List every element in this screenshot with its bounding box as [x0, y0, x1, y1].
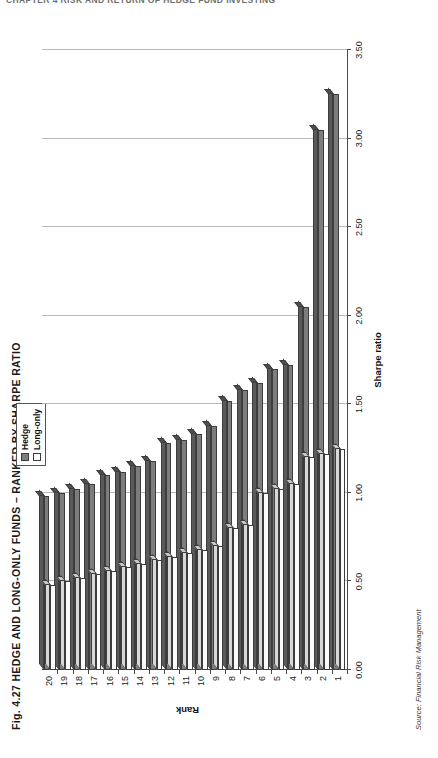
bar-long-only-rank-2	[324, 454, 330, 670]
value-axis-tick-label: 0.50	[354, 573, 364, 591]
bar-end-cap	[96, 470, 106, 475]
category-axis-tick-label: 19	[59, 676, 69, 696]
category-axis-tick-label: 5	[272, 676, 282, 696]
category-axis-tick	[73, 670, 74, 674]
bar-face	[50, 585, 56, 670]
category-axis-tick	[301, 670, 302, 674]
bar-face	[279, 489, 285, 670]
gridline	[42, 49, 347, 50]
category-axis-tick-label: 1	[333, 676, 343, 696]
bar-face	[141, 564, 147, 670]
value-axis-tick	[347, 49, 351, 50]
value-axis-tick-label: 2.50	[354, 218, 364, 236]
category-axis-tick-label: 3	[303, 676, 313, 696]
bar-end-cap	[218, 396, 228, 401]
bar-end-cap	[187, 429, 197, 434]
value-axis-tick-label: 3.50	[354, 41, 364, 59]
legend-item-hedge: Hedge	[20, 409, 30, 461]
bar-long-only-rank-6	[263, 493, 269, 670]
category-axis-tick	[103, 670, 104, 674]
category-axis-tick-label: 16	[105, 676, 115, 696]
bar-face	[96, 574, 102, 670]
bar-end-cap	[81, 479, 91, 484]
bar-top-face	[197, 543, 202, 670]
value-axis-tick	[347, 315, 351, 316]
legend-label-long-only: Long-only	[32, 409, 42, 450]
category-axis-tick-label: 10	[196, 676, 206, 696]
bar-face	[263, 493, 269, 670]
category-axis-tick-label: 20	[44, 676, 54, 696]
value-axis-title: Sharpe ratio	[372, 50, 383, 670]
category-axis-tick-label: 7	[242, 676, 252, 696]
bar-top-face	[136, 557, 141, 670]
bar-top-face	[335, 442, 340, 670]
category-axis-tick-label: 18	[74, 676, 84, 696]
bar-end-cap	[309, 125, 319, 130]
bar-face	[294, 484, 300, 670]
bar-long-only-rank-11	[187, 553, 193, 670]
bar-long-only-rank-1	[340, 449, 346, 670]
category-axis-tick	[256, 670, 257, 674]
category-axis-tick-label: 4	[288, 676, 298, 696]
bar-long-only-rank-18	[80, 578, 86, 670]
bar-end-cap	[279, 360, 289, 365]
gridline	[42, 226, 347, 227]
bar-face	[111, 571, 117, 670]
bar-top-face	[75, 571, 80, 670]
category-axis-tick	[164, 670, 165, 674]
bar-top-face	[152, 554, 157, 670]
bar-face	[233, 528, 239, 670]
category-axis-tick	[240, 670, 241, 674]
value-axis-tick	[347, 226, 351, 227]
bar-end-cap	[233, 385, 243, 390]
category-axis-tick-label: 13	[150, 676, 160, 696]
bar-face	[172, 557, 178, 670]
bar-top-face	[60, 575, 65, 670]
bar-long-only-rank-19	[65, 581, 71, 670]
bar-long-only-rank-7	[248, 525, 254, 670]
value-axis-tick-label: 2.00	[354, 307, 364, 325]
bar-top-face	[45, 579, 50, 670]
category-axis-tick	[347, 670, 348, 674]
bar-end-cap	[65, 484, 75, 489]
bar-face	[324, 454, 330, 670]
bar-top-face	[274, 483, 279, 670]
bar-top-face	[167, 550, 172, 670]
value-axis-tick-label: 3.00	[354, 130, 364, 148]
value-axis-tick	[347, 403, 351, 404]
figure-stage: Fig. 4.27 HEDGE AND LONG-ONLY FUNDS – RA…	[0, 0, 438, 758]
bar-face	[65, 581, 71, 670]
bar-top-face	[243, 518, 248, 670]
gridline	[42, 138, 347, 139]
bar-end-cap	[264, 364, 274, 369]
value-axis-tick-label: 1.00	[354, 484, 364, 502]
bar-face	[309, 457, 315, 670]
bar-top-face	[182, 547, 187, 670]
bar-top-face	[91, 568, 96, 670]
bar-end-cap	[126, 461, 136, 466]
category-axis-tick-label: 9	[211, 676, 221, 696]
category-axis-tick	[134, 670, 135, 674]
bar-top-face	[213, 540, 218, 670]
bar-long-only-rank-20	[50, 585, 56, 670]
category-axis-title: Rank	[176, 705, 199, 716]
bar-end-cap	[203, 421, 213, 426]
bar-face	[218, 546, 224, 670]
category-axis-tick	[118, 670, 119, 674]
bar-long-only-rank-13	[157, 560, 163, 670]
bar-end-cap	[172, 435, 182, 440]
category-axis-tick-label: 8	[227, 676, 237, 696]
value-axis-tick-label: 0.00	[354, 661, 364, 679]
category-axis-tick	[195, 670, 196, 674]
bar-long-only-rank-14	[141, 564, 147, 670]
bar-top-face	[289, 478, 294, 670]
bar-face	[202, 550, 208, 670]
bar-top-face	[304, 451, 309, 670]
bar-long-only-rank-16	[111, 571, 117, 670]
bar-top-face	[319, 447, 324, 670]
figure-title: Fig. 4.27 HEDGE AND LONG-ONLY FUNDS – RA…	[10, 342, 22, 730]
bar-face	[340, 449, 346, 670]
bar-end-cap	[157, 438, 167, 443]
bar-end-cap	[325, 89, 335, 94]
legend-item-long-only: Long-only	[32, 409, 42, 461]
